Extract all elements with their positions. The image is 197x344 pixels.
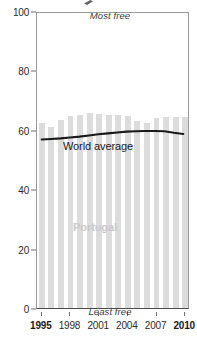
annotation-most-free: Most free <box>90 10 131 21</box>
y-tick-label: 20 <box>18 244 29 255</box>
y-tick-label: 40 <box>18 185 29 196</box>
annotation-least-free: Least free <box>88 306 131 317</box>
world-average-polyline <box>42 131 184 140</box>
y-tick-label: 80 <box>18 66 29 77</box>
chart-root: 020406080100 199519982001200420072010 Mo… <box>0 0 197 344</box>
x-tick-label: 2010 <box>173 320 194 331</box>
x-tick-mark <box>184 312 185 316</box>
x-tick-mark <box>41 312 42 316</box>
y-tick-label: 60 <box>18 125 29 136</box>
x-tick-label: 2004 <box>116 320 137 331</box>
x-tick-label: 2007 <box>145 320 166 331</box>
x-tick-mark <box>156 312 157 316</box>
line-series-world-average <box>37 13 188 308</box>
x-tick-label: 1998 <box>59 320 80 331</box>
plot-area <box>36 12 189 309</box>
y-axis: 020406080100 <box>0 0 36 320</box>
annotation-portugal: Portugal <box>73 221 117 233</box>
x-tick-label: 1995 <box>30 320 51 331</box>
x-tick-mark <box>69 312 70 316</box>
x-tick-label: 2001 <box>87 320 108 331</box>
y-tick-label: 100 <box>13 7 29 18</box>
cropped-title-glyph <box>84 0 93 5</box>
annotation-world-average: World average <box>63 140 133 152</box>
